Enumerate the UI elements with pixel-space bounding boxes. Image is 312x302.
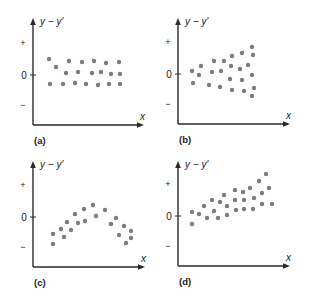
y-axis-label: y − y′ <box>184 16 209 27</box>
data-point <box>234 208 238 212</box>
data-point <box>103 208 107 212</box>
data-point <box>250 73 254 77</box>
data-point <box>73 81 77 85</box>
data-point <box>238 67 242 71</box>
tick-zero: 0 <box>21 212 27 223</box>
data-point <box>73 212 77 216</box>
x-axis-label: x <box>140 253 147 264</box>
tick-plus: + <box>165 37 170 47</box>
data-point <box>109 222 113 226</box>
data-point <box>94 214 98 218</box>
data-point <box>118 72 122 76</box>
panel-label: (a) <box>34 135 46 146</box>
data-point <box>248 186 252 190</box>
data-point <box>210 198 214 202</box>
panel-c: y − y′x+0−(c) <box>20 159 147 288</box>
data-point <box>260 202 264 206</box>
data-point <box>59 227 63 231</box>
data-point <box>251 53 255 57</box>
data-point <box>252 86 256 90</box>
residual-plots-figure: y − y′x+0−(a)y − y′x+0−(b)y − y′x+0−(c)y… <box>0 0 312 302</box>
data-point <box>61 82 65 86</box>
data-point <box>225 204 229 208</box>
data-point <box>64 71 68 75</box>
data-point <box>219 69 223 73</box>
data-point <box>242 89 246 93</box>
x-axis-label: x <box>285 110 292 121</box>
data-point <box>84 82 88 86</box>
data-point <box>83 219 87 223</box>
data-point <box>225 213 229 217</box>
data-point <box>99 70 103 74</box>
data-point <box>69 228 73 232</box>
data-point <box>250 94 254 98</box>
data-point <box>65 220 69 224</box>
data-point <box>222 59 226 63</box>
data-point <box>114 216 118 220</box>
data-point <box>233 198 237 202</box>
data-points <box>190 45 256 98</box>
data-point <box>212 59 216 63</box>
data-point <box>109 72 113 76</box>
data-point <box>117 233 121 237</box>
data-point <box>251 207 255 211</box>
data-point <box>54 65 58 69</box>
data-point <box>197 212 201 216</box>
data-point <box>90 71 94 75</box>
data-point <box>92 59 96 63</box>
data-point <box>76 221 80 225</box>
data-point <box>264 172 268 176</box>
data-point <box>104 61 108 65</box>
panel-b: y − y′x+0−(b) <box>165 16 292 145</box>
data-point <box>233 188 237 192</box>
data-point <box>190 69 194 73</box>
data-point <box>260 191 264 195</box>
data-point <box>241 190 245 194</box>
data-point <box>210 70 214 74</box>
data-points <box>190 172 274 226</box>
tick-minus: − <box>165 99 170 109</box>
panel-label: (b) <box>179 134 191 145</box>
data-point <box>218 85 222 89</box>
x-axis-arrow-icon <box>283 263 290 269</box>
x-axis-arrow-icon <box>283 121 290 127</box>
data-point <box>230 88 234 92</box>
data-point <box>257 179 261 183</box>
data-point <box>229 64 233 68</box>
tick-zero: 0 <box>166 69 172 80</box>
y-axis-arrow-icon <box>30 18 36 25</box>
y-axis-label: y − y′ <box>39 159 64 170</box>
data-point <box>191 81 195 85</box>
data-point <box>76 70 80 74</box>
data-point <box>129 229 133 233</box>
data-point <box>199 64 203 68</box>
data-points <box>51 203 133 246</box>
data-point <box>222 193 226 197</box>
data-point <box>80 60 84 64</box>
tick-minus: − <box>20 242 25 252</box>
panel-label: (d) <box>179 276 191 287</box>
panel-d: y − y′x+0−(d) <box>165 159 292 287</box>
data-point <box>205 216 209 220</box>
data-point <box>124 241 128 245</box>
data-point <box>240 51 244 55</box>
data-point <box>122 224 126 228</box>
data-point <box>197 73 201 77</box>
data-point <box>252 196 256 200</box>
data-point <box>62 235 66 239</box>
data-point <box>270 202 274 206</box>
x-axis-label: x <box>139 111 146 122</box>
tick-plus: + <box>20 180 25 190</box>
data-point <box>242 207 246 211</box>
tick-zero: 0 <box>21 70 27 81</box>
data-point <box>107 82 111 86</box>
data-point <box>47 57 51 61</box>
data-point <box>240 78 244 82</box>
x-axis-arrow-icon <box>138 264 145 270</box>
data-point <box>51 242 55 246</box>
data-point <box>117 60 121 64</box>
data-point <box>218 200 222 204</box>
y-axis-label: y − y′ <box>184 159 209 170</box>
data-point <box>207 83 211 87</box>
data-point <box>202 204 206 208</box>
